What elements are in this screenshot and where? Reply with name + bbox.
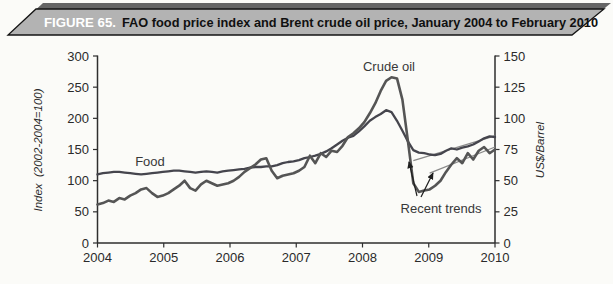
figure-title: FAO food price index and Brent crude oil… <box>122 15 598 30</box>
crude-oil-series-label: Crude oil <box>363 59 415 74</box>
left-axis-tick-label: 0 <box>82 236 89 251</box>
chart-area: 3002502001501005001501251007550250200420… <box>32 49 546 265</box>
x-axis-year-label: 2008 <box>348 250 377 265</box>
left-axis-tick-label: 50 <box>75 204 89 219</box>
left-axis-title: Index (2002-2004=100) <box>32 88 44 211</box>
crude-oil-line-series <box>98 77 496 204</box>
right-axis-tick-label: 50 <box>504 173 518 188</box>
right-axis-tick-label: 125 <box>504 80 526 95</box>
right-axis-tick-label: 75 <box>504 142 518 157</box>
left-axis-tick-label: 250 <box>67 80 89 95</box>
left-axis-tick-label: 150 <box>67 142 89 157</box>
right-axis-tick-label: 0 <box>504 236 511 251</box>
x-axis-year-label: 2004 <box>83 250 112 265</box>
arrow-to-food-trend <box>409 162 417 196</box>
left-axis-tick-label: 100 <box>67 173 89 188</box>
x-axis-year-label: 2007 <box>282 250 311 265</box>
figure-page: FIGURE 65. FAO food price index and Bren… <box>0 0 613 284</box>
right-axis-title: US$/Barrel <box>534 121 546 178</box>
figure-number: FIGURE 65. <box>44 15 116 30</box>
right-axis-tick-label: 100 <box>504 111 526 126</box>
food-series-label: Food <box>135 154 165 169</box>
left-axis-tick-label: 200 <box>67 111 89 126</box>
figure-canvas: FIGURE 65. FAO food price index and Bren… <box>0 0 613 284</box>
x-axis-year-label: 2006 <box>216 250 245 265</box>
left-axis-tick-label: 300 <box>67 49 89 64</box>
trend-line <box>430 147 495 173</box>
x-axis-year-label: 2009 <box>414 250 443 265</box>
recent-trends-label: Recent trends <box>401 201 482 216</box>
x-axis-year-label: 2010 <box>481 250 510 265</box>
x-axis-year-label: 2005 <box>149 250 178 265</box>
right-axis-tick-label: 25 <box>504 204 518 219</box>
figure-title-banner: FIGURE 65. FAO food price index and Bren… <box>8 3 611 35</box>
right-axis-tick-label: 150 <box>504 49 526 64</box>
arrow-to-crude-trend <box>421 173 433 197</box>
